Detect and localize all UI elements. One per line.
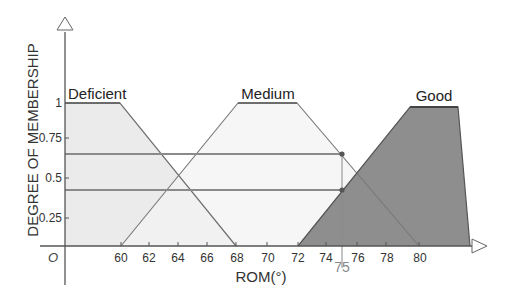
y-tick-labels: 0.25 0.5 0.75 1 (39, 96, 63, 225)
x-axis-title: ROM(°) (236, 268, 287, 285)
y-axis-title: DEGREE OF MEMBERSHIP (24, 43, 41, 236)
good-label: Good (416, 87, 453, 104)
x-tick-labels: 60 62 64 66 68 70 72 74 76 78 80 (114, 251, 427, 265)
x-tick-62: 62 (142, 251, 156, 265)
x-axis-arrow-icon (472, 239, 487, 253)
x-tick-66: 66 (200, 251, 214, 265)
x-tick-70: 70 (261, 251, 275, 265)
membership-function-chart: 0.25 0.5 0.75 1 60 62 64 66 68 70 72 74 … (0, 0, 510, 299)
x-tick-60: 60 (114, 251, 128, 265)
deficient-label: Deficient (68, 85, 127, 102)
x-tick-76: 76 (351, 251, 365, 265)
y-tick-0-75: 0.75 (39, 131, 63, 145)
intersection-point-good (339, 187, 344, 192)
x-tick-72: 72 (291, 251, 305, 265)
y-tick-0-25: 0.25 (39, 211, 63, 225)
x-tick-74: 74 (319, 251, 333, 265)
origin-label: O (48, 250, 58, 265)
y-tick-1: 1 (55, 96, 62, 110)
x-tick-64: 64 (171, 251, 185, 265)
intersection-point-medium (339, 151, 344, 156)
marker-label-75: 75 (334, 259, 350, 275)
y-tick-0-5: 0.5 (45, 171, 62, 185)
medium-label: Medium (241, 85, 294, 102)
x-tick-68: 68 (230, 251, 244, 265)
x-tick-80: 80 (413, 251, 427, 265)
x-tick-78: 78 (380, 251, 394, 265)
y-axis-arrow-icon (57, 17, 73, 30)
